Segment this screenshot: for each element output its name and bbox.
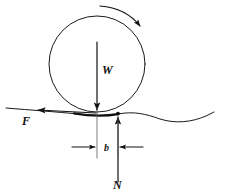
- figure-canvas: W F N b: [0, 0, 226, 191]
- rotation-direction-arrow: [100, 6, 140, 26]
- weight-label: W: [102, 63, 114, 77]
- contact-point-dot: [116, 112, 120, 116]
- normal-label: N: [112, 178, 123, 191]
- friction-label: F: [21, 114, 30, 128]
- contact-patch: [74, 113, 118, 115]
- offset-label: b: [104, 142, 109, 153]
- rolling-resistance-figure: W F N b: [0, 0, 226, 191]
